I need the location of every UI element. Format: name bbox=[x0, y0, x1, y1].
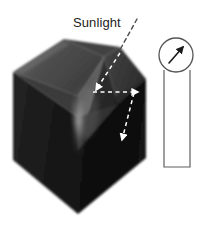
annotation-layer bbox=[0, 0, 204, 250]
incoming-ray-arrow bbox=[96, 53, 120, 90]
reflected-ray-arrow bbox=[122, 93, 134, 140]
figure-container: Sunlight bbox=[0, 0, 204, 250]
inset-bracket-leader bbox=[164, 70, 190, 167]
sunlight-label: Sunlight bbox=[73, 16, 121, 30]
